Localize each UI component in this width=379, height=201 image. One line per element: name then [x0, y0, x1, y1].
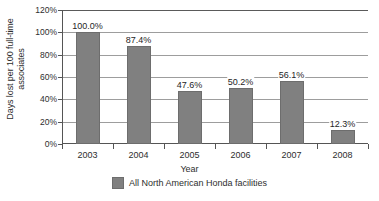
- value-label-2006: 50.2%: [227, 77, 255, 87]
- x-tick-label-2004: 2004: [128, 150, 148, 161]
- x-tick-mark-5: [317, 144, 318, 149]
- value-label-2006-text: 50.2%: [227, 77, 255, 87]
- y-tick-mark-40: [58, 99, 63, 100]
- value-label-2003: 100.0%: [71, 21, 104, 31]
- y-tick-label-120: 120%: [11, 6, 57, 15]
- x-tick-label-2006: 2006: [230, 150, 250, 161]
- gridline-80: [62, 55, 368, 56]
- bar-2006[interactable]: [229, 88, 253, 144]
- bar-chart: Days lost per 100 full-time associates 1…: [0, 0, 379, 201]
- x-tick-mark-4: [266, 144, 267, 149]
- x-tick-mark-2: [164, 144, 165, 149]
- y-tick-label-100: 100%: [11, 28, 57, 37]
- bar-2007[interactable]: [280, 81, 304, 144]
- value-label-2005: 47.6%: [176, 80, 204, 90]
- value-label-2007-text: 56.1%: [278, 70, 306, 80]
- value-label-2005-text: 47.6%: [176, 80, 204, 90]
- bar-2003[interactable]: [76, 32, 100, 144]
- bar-2005[interactable]: [178, 91, 202, 144]
- y-tick-mark-60: [58, 77, 63, 78]
- y-tick-mark-120: [58, 10, 63, 11]
- y-axis-title: Days lost per 100 full-time associates: [3, 2, 29, 136]
- legend: All North American Honda facilities: [0, 177, 379, 189]
- value-label-2007: 56.1%: [278, 70, 306, 80]
- x-tick-mark-0: [62, 144, 63, 149]
- legend-label-series-1: All North American Honda facilities: [129, 178, 267, 189]
- y-tick-label-40: 40%: [11, 95, 57, 104]
- value-label-2008-text: 12.3%: [329, 119, 357, 129]
- x-tick-label-2005: 2005: [179, 150, 199, 161]
- bar-2008[interactable]: [331, 130, 355, 144]
- gridline-100: [62, 32, 368, 33]
- x-tick-label-2007: 2007: [281, 150, 301, 161]
- value-label-2004-text: 87.4%: [125, 35, 153, 45]
- legend-swatch-icon: [112, 177, 124, 189]
- y-tick-label-60: 60%: [11, 73, 57, 82]
- gridline-40: [62, 99, 368, 100]
- y-tick-label-20: 20%: [11, 117, 57, 126]
- y-tick-mark-100: [58, 32, 63, 33]
- x-tick-mark-1: [113, 144, 114, 149]
- y-tick-label-80: 80%: [11, 50, 57, 59]
- y-tick-label-0: 0%: [11, 140, 57, 149]
- x-tick-label-2008: 2008: [332, 150, 352, 161]
- gridline-60: [62, 77, 368, 78]
- value-label-2003-text: 100.0%: [71, 21, 104, 31]
- gridline-20: [62, 122, 368, 123]
- y-tick-mark-20: [58, 122, 63, 123]
- bar-2004[interactable]: [127, 46, 151, 144]
- value-label-2008: 12.3%: [329, 119, 357, 129]
- plot-top-gridline: [62, 10, 368, 11]
- value-label-2004: 87.4%: [125, 35, 153, 45]
- y-tick-mark-80: [58, 55, 63, 56]
- x-tick-mark-6: [368, 144, 369, 149]
- x-tick-mark-3: [215, 144, 216, 149]
- x-axis-title: Year: [0, 164, 379, 175]
- x-tick-label-2003: 2003: [77, 150, 97, 161]
